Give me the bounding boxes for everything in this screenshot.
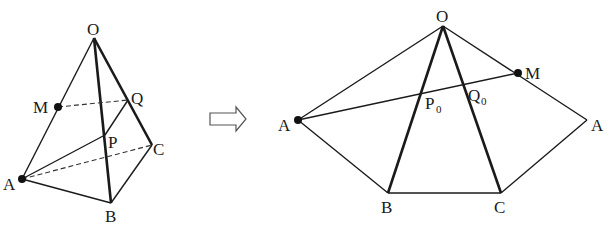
edge-OB xyxy=(388,26,443,193)
tetrahedron-figure: O M Q P C A B xyxy=(3,20,164,226)
point-M xyxy=(54,103,62,111)
label-A-right: A xyxy=(591,116,604,135)
label-C: C xyxy=(494,198,505,217)
label-Q0-main: Q xyxy=(468,86,480,105)
edge-OA-left xyxy=(298,26,443,120)
point-M xyxy=(514,69,522,77)
edge-AB xyxy=(22,179,111,203)
label-C: C xyxy=(153,140,164,159)
label-P0-sub: 0 xyxy=(436,103,442,115)
edge-CA-right xyxy=(501,120,587,193)
edge-OC xyxy=(443,26,501,193)
label-A-left: A xyxy=(278,116,291,135)
label-M: M xyxy=(33,98,48,117)
label-M: M xyxy=(525,64,540,83)
segment-PQ xyxy=(105,100,128,135)
label-P: P xyxy=(108,133,117,152)
segment-AP xyxy=(22,135,105,179)
hollow-right-arrow-icon xyxy=(210,107,246,131)
label-P0-main: P xyxy=(425,94,434,113)
label-O: O xyxy=(87,20,99,39)
label-O: O xyxy=(436,7,448,26)
diagram-canvas: O M Q P C A B O M A A B C P 0 Q 0 xyxy=(0,0,609,235)
hidden-edge-AC xyxy=(22,145,152,179)
label-B: B xyxy=(105,207,116,226)
label-P0: P 0 xyxy=(425,94,442,115)
hidden-segment-MQ xyxy=(58,100,128,107)
point-A-left xyxy=(294,116,302,124)
edge-AB xyxy=(298,120,388,193)
label-Q: Q xyxy=(131,89,143,108)
unfolded-net-figure: O M A A B C P 0 Q 0 xyxy=(278,7,604,217)
label-A: A xyxy=(3,175,16,194)
label-Q0: Q 0 xyxy=(468,86,487,107)
label-Q0-sub: 0 xyxy=(481,95,487,107)
point-A xyxy=(18,175,26,183)
label-B: B xyxy=(381,198,392,217)
